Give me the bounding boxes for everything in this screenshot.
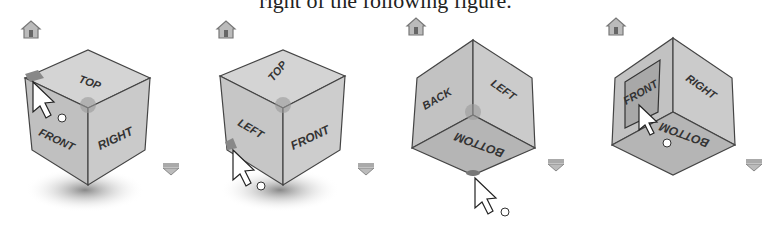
- cube-graphic[interactable]: BACK LEFT BOTTOM: [390, 0, 580, 230]
- viewcube-menu-icon[interactable]: [547, 158, 565, 172]
- cube-graphic[interactable]: TOP LEFT FRONT: [195, 0, 385, 230]
- cube-graphic[interactable]: FRONT RIGHT BOTTOM: [580, 0, 770, 230]
- orbit-icon: [663, 139, 671, 147]
- viewcube-3[interactable]: BACK LEFT BOTTOM: [390, 0, 580, 230]
- cube-graphic[interactable]: TOP FRONT RIGHT: [0, 0, 190, 230]
- cursor-arrow-icon: [475, 178, 496, 214]
- viewcube-menu-icon[interactable]: [357, 162, 375, 176]
- orbit-icon: [257, 182, 265, 190]
- viewcube-menu-icon[interactable]: [162, 162, 180, 176]
- viewcube-menu-icon[interactable]: [745, 158, 763, 172]
- orbit-icon: [501, 208, 509, 216]
- orbit-icon: [58, 114, 66, 122]
- viewcube-1[interactable]: TOP FRONT RIGHT: [0, 0, 190, 230]
- viewcube-2[interactable]: TOP LEFT FRONT: [195, 0, 385, 230]
- viewcube-4[interactable]: FRONT RIGHT BOTTOM: [580, 0, 770, 230]
